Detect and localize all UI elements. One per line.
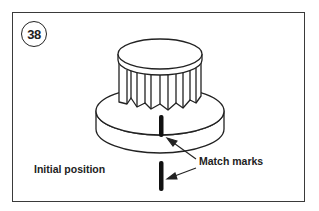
lower-match-mark xyxy=(159,161,164,191)
knob-top xyxy=(118,39,202,75)
initial-position-label: Initial position xyxy=(34,163,105,175)
knob-diagram xyxy=(0,0,319,211)
step-number-badge: 38 xyxy=(21,21,47,47)
match-marks-label: Match marks xyxy=(199,155,263,167)
upper-match-mark xyxy=(159,115,164,137)
